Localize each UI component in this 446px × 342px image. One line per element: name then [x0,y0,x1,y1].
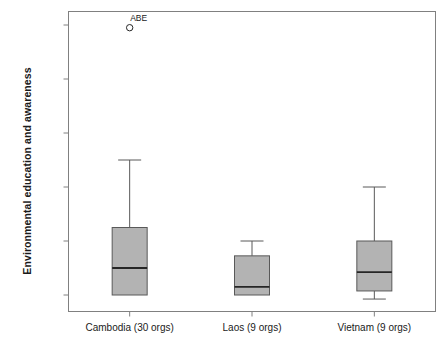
plot-area [0,0,446,342]
box [357,241,392,291]
x-axis-tick-label: Cambodia (30 orgs) [85,323,173,333]
box [235,256,270,295]
x-axis-tick-label: Vietnam (9 orgs) [337,323,411,333]
x-axis-tick-label: Laos (9 orgs) [223,323,282,333]
y-axis-tick-labels: 0.0020.0040.0060.0080.00100.00 [0,0,62,342]
box [112,228,147,296]
outlier-label: ABE [130,14,147,23]
boxplot-chart: Environmental education and awareness 0.… [0,0,446,342]
